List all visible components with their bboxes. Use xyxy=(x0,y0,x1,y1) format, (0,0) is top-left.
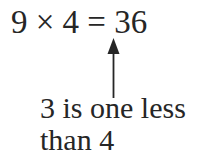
annotation-line-2: than 4 xyxy=(40,124,186,156)
equation: 9 × 4 = 36 xyxy=(11,4,147,40)
annotation-text: 3 is one less than 4 xyxy=(40,92,186,156)
up-arrow-icon xyxy=(107,38,120,98)
annotation-line-1: 3 is one less xyxy=(40,92,186,124)
